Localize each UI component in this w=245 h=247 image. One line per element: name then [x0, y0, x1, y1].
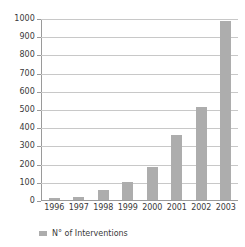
y-axis-tick-label: 800	[19, 51, 35, 59]
x-axis-labels: 19961997199819992000200120022003	[42, 203, 238, 212]
y-axis-tick-label: 600	[19, 88, 35, 96]
bar-slot	[189, 19, 214, 200]
y-axis-tick-label: 0	[30, 197, 35, 205]
y-axis-tick-label: 700	[19, 70, 35, 78]
chart-legend: N° of Interventions	[39, 229, 128, 238]
x-axis-tick-label: 1999	[116, 203, 141, 212]
y-axis-tick-label: 500	[19, 106, 35, 114]
y-axis-tick-mark	[37, 110, 41, 111]
plot-area: 01002003004005006007008009001000	[41, 19, 238, 201]
y-axis-tick-mark	[37, 201, 41, 202]
bar[interactable]	[196, 107, 207, 200]
bar-slot	[91, 19, 116, 200]
y-axis-tick-mark	[37, 92, 41, 93]
x-axis-tick-label: 1997	[67, 203, 92, 212]
x-axis-tick-label: 2001	[165, 203, 190, 212]
y-axis-tick-label: 1000	[14, 15, 35, 23]
bar[interactable]	[147, 167, 158, 200]
y-axis-tick-mark	[37, 74, 41, 75]
bar-slot	[214, 19, 239, 200]
bar-slot	[165, 19, 190, 200]
bar-slot	[116, 19, 141, 200]
x-axis-tick-label: 2003	[214, 203, 239, 212]
bar-slot	[67, 19, 92, 200]
y-axis-tick-mark	[37, 19, 41, 20]
y-axis-tick-mark	[37, 37, 41, 38]
legend-label: N° of Interventions	[52, 229, 128, 238]
y-axis-tick-mark	[37, 165, 41, 166]
y-axis-tick-mark	[37, 55, 41, 56]
bar[interactable]	[122, 182, 133, 200]
y-axis-tick-label: 300	[19, 142, 35, 150]
bar[interactable]	[49, 198, 60, 200]
y-axis-tick-mark	[37, 183, 41, 184]
bar[interactable]	[220, 21, 231, 200]
y-axis-tick-label: 200	[19, 161, 35, 169]
bar-slot	[42, 19, 67, 200]
y-axis-tick-mark	[37, 128, 41, 129]
y-axis-tick-label: 400	[19, 124, 35, 132]
bar[interactable]	[73, 197, 84, 200]
bar[interactable]	[171, 135, 182, 200]
x-axis-tick-label: 2000	[140, 203, 165, 212]
y-axis-tick-mark	[37, 146, 41, 147]
x-axis-tick-label: 1996	[42, 203, 67, 212]
y-axis-tick-label: 900	[19, 33, 35, 41]
x-axis-tick-label: 2002	[189, 203, 214, 212]
bar-chart-figure: 01002003004005006007008009001000 1996199…	[0, 0, 245, 247]
bar[interactable]	[98, 190, 109, 200]
legend-swatch-icon	[39, 231, 47, 236]
bar-slot	[140, 19, 165, 200]
bars-layer	[42, 19, 238, 200]
y-axis-tick-label: 100	[19, 179, 35, 187]
x-axis-tick-label: 1998	[91, 203, 116, 212]
